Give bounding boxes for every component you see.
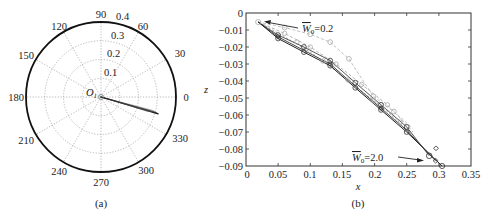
polar-plot: O1 0 30 60 90 120 150 180 210 240 270 30… — [8, 9, 189, 210]
y-tick-0.04: −0.04 — [219, 76, 244, 87]
series-w0-2.0 — [258, 22, 442, 166]
y-tick-0.08: −0.08 — [219, 144, 243, 155]
angle-label-90: 90 — [96, 9, 107, 20]
polar-trajectories — [101, 97, 158, 114]
radius-label-0.2: 0.2 — [107, 48, 120, 59]
angle-label-60: 60 — [138, 21, 149, 32]
series-w0-1.5 — [258, 22, 435, 161]
x-ticks — [278, 13, 439, 166]
annotation-w0-0.2-text: W0=0.2 — [302, 23, 333, 36]
caption-a: (a) — [95, 197, 108, 210]
y-axis-label: z — [203, 84, 208, 95]
x-tick-0.15: 0.15 — [333, 169, 351, 180]
angle-label-210: 210 — [18, 135, 34, 146]
y-tick-0.09: −0.09 — [219, 161, 243, 172]
caption-b: (b) — [352, 197, 365, 210]
y-tick-0.05: −0.05 — [219, 93, 243, 104]
x-tick-0.3: 0.3 — [432, 169, 445, 180]
angle-label-30: 30 — [175, 48, 186, 59]
y-tick-0.07: −0.07 — [219, 127, 243, 138]
x-tick-0.1: 0.1 — [303, 169, 316, 180]
x-tick-0.2: 0.2 — [368, 169, 381, 180]
annotation-w0-2.0-text: W0=2.0 — [352, 152, 383, 165]
x-tick-0.05: 0.05 — [269, 169, 287, 180]
polar-radius-labels: 0.1 0.2 0.3 0.4 — [104, 11, 130, 78]
angle-label-300: 300 — [138, 165, 154, 176]
x-axis-label: x — [355, 181, 361, 192]
x-tick-labels: 0 0.05 0.1 0.15 0.2 0.25 0.3 0.35 — [244, 169, 480, 180]
angle-label-180: 180 — [8, 92, 24, 103]
radius-label-0.1: 0.1 — [104, 67, 117, 78]
angle-label-150: 150 — [18, 50, 34, 61]
radius-label-0.3: 0.3 — [111, 30, 124, 41]
angle-label-240: 240 — [51, 166, 67, 177]
y-tick-0.01: −0.01 — [219, 25, 243, 36]
radius-label-0.4: 0.4 — [116, 11, 130, 22]
y-tick-labels: 0 −0.01 −0.02 −0.03 −0.04 −0.05 −0.06 −0… — [219, 8, 244, 172]
y-tick-0.06: −0.06 — [219, 110, 243, 121]
origin-label: O1 — [86, 87, 97, 100]
angle-label-330: 330 — [172, 133, 188, 144]
x-tick-0: 0 — [244, 169, 249, 180]
line-plot: 0 0.05 0.1 0.15 0.2 0.25 0.3 0.35 0 −0.0… — [203, 8, 480, 210]
annotation-w0-2.0: W0=2.0 — [352, 152, 424, 165]
angle-label-120: 120 — [51, 21, 67, 32]
y-ticks — [246, 30, 471, 149]
y-tick-0: 0 — [238, 8, 243, 19]
y-tick-0.03: −0.03 — [219, 59, 243, 70]
angle-label-270: 270 — [93, 177, 109, 188]
figure: O1 0 30 60 90 120 150 180 210 240 270 30… — [0, 0, 488, 214]
angle-label-0: 0 — [183, 92, 188, 103]
x-tick-0.35: 0.35 — [462, 169, 480, 180]
series-lines — [258, 22, 442, 166]
y-tick-0.02: −0.02 — [219, 42, 243, 53]
x-tick-0.25: 0.25 — [398, 169, 416, 180]
